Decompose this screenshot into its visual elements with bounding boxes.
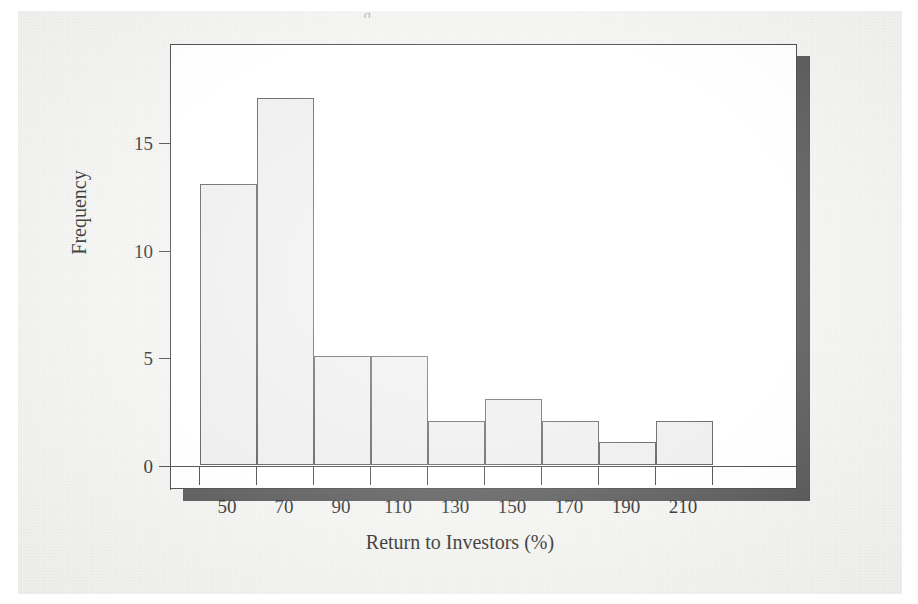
x-axis-tick-label: 210 (653, 497, 713, 516)
histogram-bar (485, 399, 542, 465)
scanned-page-sheet: g 051015 507090110130150170190210 Return… (18, 11, 902, 594)
x-axis-tick (598, 467, 599, 485)
x-axis-tick (313, 467, 314, 485)
y-axis-tick-label: 0 (113, 457, 153, 476)
histogram-bar (599, 442, 656, 465)
y-axis-tick (159, 143, 171, 144)
y-axis-line (170, 44, 171, 490)
y-axis-tick-label: 10 (113, 242, 153, 261)
x-axis-tick-label: 130 (425, 497, 485, 516)
x-axis-tick-label: 150 (482, 497, 542, 516)
x-axis-tick-label: 110 (368, 497, 428, 516)
x-axis-tick (199, 467, 200, 485)
histogram-bar (257, 98, 314, 465)
histogram-bar (200, 184, 257, 465)
x-axis-tick (655, 467, 656, 485)
histogram-bar (428, 421, 485, 465)
x-axis-title: Return to Investors (%) (18, 531, 902, 554)
histogram-figure: 051015 507090110130150170190210 Return t… (18, 11, 902, 594)
x-axis-tick (256, 467, 257, 485)
histogram-bar (371, 356, 428, 465)
x-axis-tick (484, 467, 485, 485)
x-axis-tick (541, 467, 542, 485)
x-axis-tick-label: 50 (197, 497, 257, 516)
y-axis-title: Frequency (68, 143, 91, 283)
y-axis-tick (159, 466, 171, 467)
y-axis-tick-label: 15 (113, 134, 153, 153)
x-axis-tick-label: 190 (596, 497, 656, 516)
x-axis-tick (712, 467, 713, 485)
y-axis-tick-label: 5 (113, 349, 153, 368)
x-axis-tick (427, 467, 428, 485)
plot-frame (170, 44, 797, 489)
x-axis-tick (370, 467, 371, 485)
histogram-bar (656, 421, 713, 465)
plot-area (171, 45, 796, 488)
y-axis-tick (159, 358, 171, 359)
histogram-bar (542, 421, 599, 465)
x-axis-tick-label: 170 (539, 497, 599, 516)
x-axis-tick-label: 70 (254, 497, 314, 516)
y-axis-tick (159, 251, 171, 252)
x-axis-tick-label: 90 (311, 497, 371, 516)
histogram-bar (314, 356, 371, 465)
